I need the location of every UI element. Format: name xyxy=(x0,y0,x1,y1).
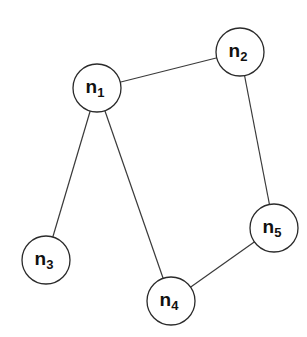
node-n5: n5 xyxy=(250,204,298,252)
node-n4: n4 xyxy=(147,277,195,325)
node-label-base: n xyxy=(263,216,275,237)
node-label-subscript: 3 xyxy=(46,257,53,272)
node-n2: n2 xyxy=(216,28,264,76)
node-label-base: n xyxy=(160,289,172,310)
edge-n1-n4 xyxy=(97,88,171,301)
node-n1: n1 xyxy=(73,64,121,112)
edge-n2-n5 xyxy=(240,52,274,228)
node-label-subscript: 2 xyxy=(240,49,247,64)
graph-diagram: n1n2n3n4n5 xyxy=(0,0,307,337)
edge-n1-n3 xyxy=(46,88,97,260)
node-label-subscript: 1 xyxy=(97,85,104,100)
node-label-base: n xyxy=(86,76,98,97)
node-label-base: n xyxy=(229,40,241,61)
node-label-base: n xyxy=(35,248,47,269)
node-label-subscript: 4 xyxy=(171,298,179,313)
node-n3: n3 xyxy=(22,236,70,284)
node-label-subscript: 5 xyxy=(274,225,281,240)
